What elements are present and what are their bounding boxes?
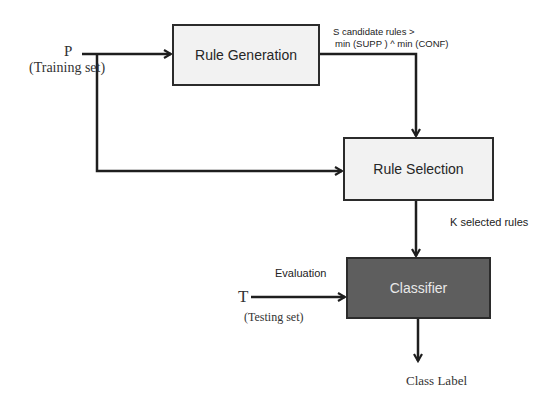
rule-selection-label: Rule Selection [373, 161, 463, 177]
diagram-canvas: Rule Generation Rule Selection Classifie… [0, 0, 547, 403]
evaluation-label: Evaluation [275, 267, 326, 279]
rule-generation-node: Rule Generation [172, 24, 320, 86]
rule-generation-label: Rule Generation [195, 47, 297, 63]
edge-rule-generation-to-rule-selection [319, 54, 416, 136]
selected-rules-label: K selected rules [450, 216, 528, 228]
candidate-rules-label-line1: S candidate rules > [333, 26, 415, 37]
testing-caption: (Testing set) [244, 310, 303, 325]
class-label-output: Class Label [406, 373, 467, 389]
classifier-label: Classifier [390, 280, 448, 296]
rule-selection-node: Rule Selection [343, 137, 494, 201]
candidate-rules-label-line2: min (SUPP ) ^ min (CONF) [335, 38, 449, 49]
training-caption: (Training set) [29, 60, 105, 76]
training-symbol: P [64, 43, 72, 60]
testing-symbol: T [238, 287, 248, 307]
classifier-node: Classifier [346, 257, 491, 319]
